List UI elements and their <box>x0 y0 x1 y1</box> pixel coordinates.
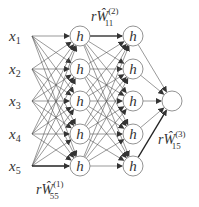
edge <box>88 41 123 63</box>
edge <box>32 69 75 156</box>
weight-label-w3-15: rŴ(3)15 <box>158 129 186 151</box>
hidden-node-layer1: h <box>70 59 90 79</box>
node-label: h <box>76 28 84 44</box>
output-node <box>162 91 182 111</box>
edge <box>32 134 71 160</box>
edge <box>32 69 71 95</box>
edge <box>32 42 71 69</box>
edge <box>85 46 128 126</box>
hidden-node-layer2: h <box>123 59 143 79</box>
input-label: x3 <box>8 93 21 111</box>
node-label: h <box>129 28 137 44</box>
neural-network-diagram: hhhhhhhhhh x1x2x3x4x5rŴ(2)11rŴ(1)55rŴ(3)… <box>0 0 199 207</box>
edge <box>141 108 164 127</box>
weight-label-w1-55: rŴ(1)55 <box>36 179 64 201</box>
hidden-node-layer1: h <box>70 124 90 144</box>
edge <box>32 107 71 134</box>
edge <box>85 79 128 158</box>
edge <box>89 74 124 95</box>
edge <box>32 101 71 128</box>
edge <box>141 75 164 94</box>
edge <box>32 36 71 63</box>
edge <box>89 140 124 161</box>
node-label: h <box>76 158 84 174</box>
hidden-node-layer2: h <box>123 124 143 144</box>
input-label: x2 <box>8 61 21 79</box>
input-label: x4 <box>8 126 21 144</box>
edge <box>32 46 75 134</box>
edge <box>32 36 75 124</box>
weight-label-w2-11: rŴ(2)11 <box>91 6 119 28</box>
edge <box>32 140 71 166</box>
node-label: h <box>129 61 137 77</box>
node-label: h <box>76 93 84 109</box>
input-label: x1 <box>8 28 21 46</box>
hidden-node-layer1: h <box>70 91 90 111</box>
hidden-node-layer2: h <box>123 156 143 176</box>
hidden-node-layer1: h <box>70 26 90 46</box>
input-label: x5 <box>8 158 21 176</box>
hidden-node-layer1: h <box>70 156 90 176</box>
edge <box>89 139 124 160</box>
hidden-node-layer2: h <box>123 91 143 111</box>
edge <box>32 75 71 101</box>
node-label: h <box>129 93 137 109</box>
node-label: h <box>76 126 84 142</box>
edge <box>84 45 129 156</box>
node-label: h <box>76 61 84 77</box>
node-label: h <box>129 126 137 142</box>
node-label: h <box>129 158 137 174</box>
hidden-node-layer2: h <box>123 26 143 46</box>
